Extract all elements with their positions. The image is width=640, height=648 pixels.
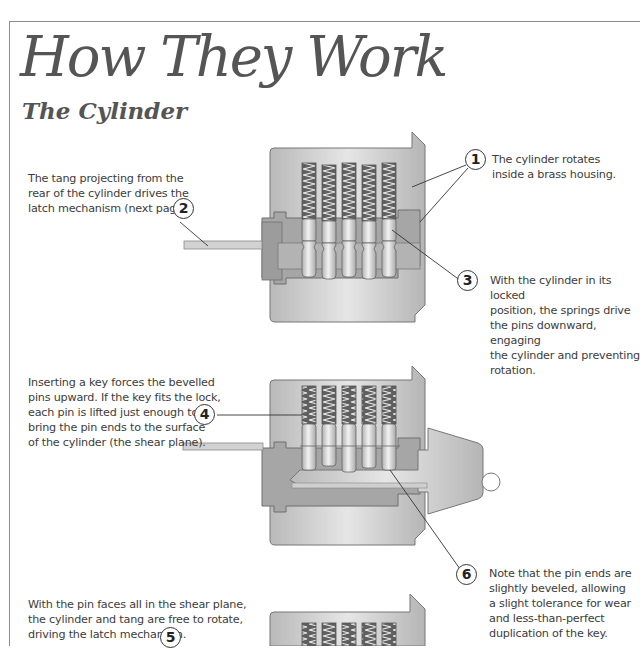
callout-text-5: With the pin faces all in the shear plan… <box>28 597 246 642</box>
callout-text-4: Inserting a key forces the bevelled pins… <box>28 375 221 450</box>
diagram-with-key <box>183 366 500 545</box>
callout-text-3: With the cylinder in its locked position… <box>490 273 640 378</box>
callout-badge-5: 5 <box>160 627 181 648</box>
callout-badge-4: 4 <box>194 404 215 425</box>
diagram-rotating <box>270 594 425 646</box>
callout-text-2: The tang projecting from the rear of the… <box>28 171 190 216</box>
callout-badge-3: 3 <box>457 270 478 291</box>
callout-text-6: Note that the pin ends are slightly beve… <box>489 566 631 641</box>
diagram-locked <box>184 132 425 322</box>
callout-text-1: The cylinder rotates inside a brass hous… <box>492 152 616 182</box>
callout-badge-1: 1 <box>465 149 486 170</box>
callout-badge-2: 2 <box>173 198 194 219</box>
callout-badge-6: 6 <box>456 564 477 585</box>
